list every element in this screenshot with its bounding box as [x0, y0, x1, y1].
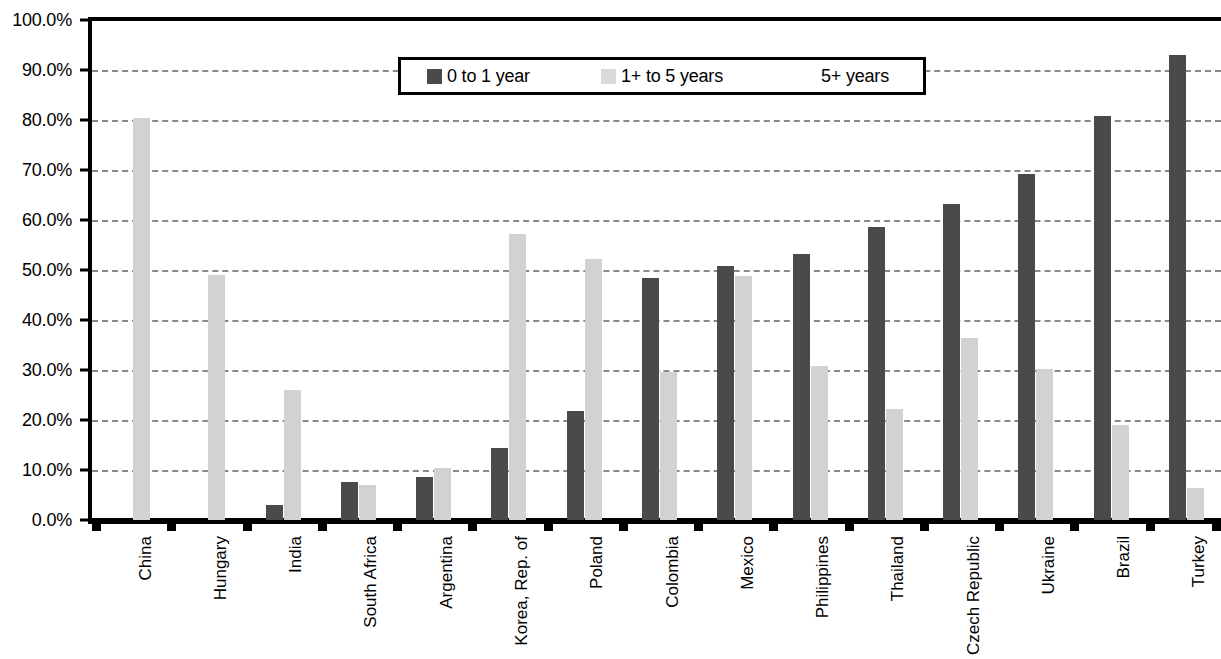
- y-axis-tick-mark: [80, 69, 92, 72]
- x-axis-category-label: Korea, Rep. of: [513, 536, 530, 646]
- bar: [491, 448, 508, 520]
- x-axis-category-label: Ukraine: [1040, 536, 1057, 595]
- bar: [1169, 55, 1186, 520]
- x-axis-tick-mark: [544, 522, 553, 531]
- x-axis-tick-mark: [694, 522, 703, 531]
- x-axis-tick-mark: [243, 522, 252, 531]
- bar: [509, 234, 526, 520]
- chart-legend: 0 to 1 year1+ to 5 years5+ years: [398, 57, 926, 95]
- legend-swatch-icon: [801, 69, 816, 84]
- legend-swatch-icon: [427, 69, 442, 84]
- x-axis-category-label: Argentina: [438, 536, 455, 609]
- x-axis-category-label: Turkey: [1190, 536, 1207, 587]
- plot-area: [92, 20, 1221, 520]
- x-axis-tick-mark: [1146, 522, 1155, 531]
- bar: [868, 227, 885, 520]
- legend-label: 5+ years: [821, 67, 889, 85]
- bar: [1094, 116, 1111, 521]
- bar: [793, 254, 810, 520]
- y-axis-tick-mark: [80, 419, 92, 422]
- y-axis-tick-label: 60.0%: [22, 211, 72, 229]
- gridline: [92, 270, 1221, 272]
- bar: [284, 390, 301, 521]
- x-axis-category-label: Thailand: [889, 536, 906, 601]
- legend-label: 1+ to 5 years: [621, 67, 723, 85]
- y-axis-tick-mark: [80, 19, 92, 22]
- x-axis-category-label: India: [287, 536, 304, 573]
- bar: [961, 338, 978, 521]
- x-axis-category-label: Mexico: [739, 536, 756, 590]
- y-axis-tick-mark: [80, 169, 92, 172]
- y-axis-tick-mark: [80, 269, 92, 272]
- legend-entry: 1+ to 5 years: [601, 67, 723, 85]
- legend-entry: 5+ years: [801, 67, 889, 85]
- x-axis-category-label: Hungary: [212, 536, 229, 600]
- x-axis-tick-mark: [167, 522, 176, 531]
- x-axis-tick-mark: [995, 522, 1004, 531]
- bar: [660, 372, 677, 521]
- bar: [1018, 174, 1035, 520]
- y-axis-tick-mark: [80, 469, 92, 472]
- y-axis-tick-label: 0.0%: [32, 511, 72, 529]
- legend-entry: 0 to 1 year: [427, 67, 530, 85]
- x-axis-tick-mark: [468, 522, 477, 531]
- x-axis-tick-mark: [318, 522, 327, 531]
- y-axis-tick-mark: [80, 369, 92, 372]
- y-axis-tick-label: 70.0%: [22, 161, 72, 179]
- bar: [811, 366, 828, 521]
- bar: [1036, 369, 1053, 521]
- bar-chart: 100.0%90.0%80.0%70.0%60.0%50.0%40.0%30.0…: [0, 0, 1221, 659]
- bar: [735, 276, 752, 521]
- bar: [208, 275, 225, 520]
- y-axis-tick-label: 90.0%: [22, 61, 72, 79]
- y-axis-tick-label: 30.0%: [22, 361, 72, 379]
- y-axis-tick-label: 20.0%: [22, 411, 72, 429]
- bar: [266, 505, 283, 521]
- bar: [133, 118, 150, 521]
- x-axis-tick-mark: [769, 522, 778, 531]
- bar: [943, 204, 960, 521]
- x-axis-tick-mark: [393, 522, 402, 531]
- y-axis-tick-label: 40.0%: [22, 311, 72, 329]
- bar: [341, 482, 358, 520]
- bar: [886, 409, 903, 520]
- legend-label: 0 to 1 year: [447, 67, 530, 85]
- y-axis-tick-label: 80.0%: [22, 111, 72, 129]
- y-axis-tick-label: 50.0%: [22, 261, 72, 279]
- x-axis-category-label: China: [137, 536, 154, 580]
- x-axis-tick-mark: [1070, 522, 1079, 531]
- legend-swatch-icon: [601, 69, 616, 84]
- x-axis-tick-mark: [920, 522, 929, 531]
- x-axis-category-label: Brazil: [1115, 536, 1132, 579]
- bar: [434, 468, 451, 521]
- y-axis-tick-label: 100.0%: [12, 11, 72, 29]
- x-axis-category-label: Colombia: [664, 536, 681, 608]
- y-axis: 100.0%90.0%80.0%70.0%60.0%50.0%40.0%30.0…: [0, 0, 78, 540]
- y-axis-tick-mark: [80, 119, 92, 122]
- bar: [359, 485, 376, 521]
- bar: [567, 411, 584, 520]
- x-axis-category-label: Czech Republic: [965, 536, 982, 655]
- x-axis-tick-mark: [92, 522, 101, 531]
- y-axis-tick-mark: [80, 519, 92, 522]
- gridline: [92, 170, 1221, 172]
- x-axis-tick-mark: [845, 522, 854, 531]
- x-axis-category-label: South Africa: [362, 536, 379, 628]
- y-axis-tick-label: 10.0%: [22, 461, 72, 479]
- x-axis-category-label: Philippines: [814, 536, 831, 618]
- gridline: [92, 120, 1221, 122]
- bar: [717, 266, 734, 520]
- y-axis-tick-mark: [80, 319, 92, 322]
- bar: [1187, 488, 1204, 520]
- bar: [1112, 425, 1129, 520]
- gridline: [92, 220, 1221, 222]
- x-axis-category-label: Poland: [588, 536, 605, 589]
- bar: [642, 278, 659, 521]
- bar: [416, 477, 433, 520]
- x-axis-tick-mark: [619, 522, 628, 531]
- y-axis-tick-mark: [80, 219, 92, 222]
- x-axis-tick-mark: [1212, 522, 1221, 531]
- bar: [585, 259, 602, 520]
